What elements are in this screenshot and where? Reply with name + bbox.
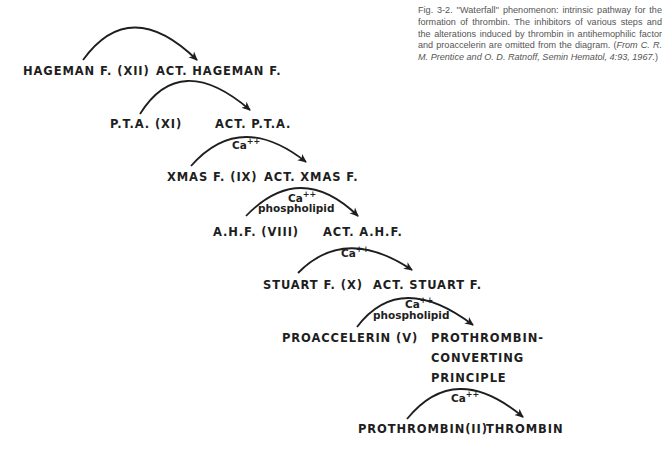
substrate-ahf: A.H.F. (VIII) bbox=[213, 225, 299, 239]
substrate-xmas: XMAS F. (IX) bbox=[167, 170, 258, 184]
product-prothrombin-converting-principle-line2: CONVERTING bbox=[431, 351, 524, 365]
cofactor-calcium: Ca++ bbox=[232, 137, 260, 151]
cofactor-calcium: Ca++ bbox=[405, 296, 433, 310]
product-act-hageman: ACT. HAGEMAN F. bbox=[156, 64, 282, 78]
substrate-pta: P.T.A. (XI) bbox=[110, 117, 182, 131]
substrate-stuart: STUART F. (X) bbox=[263, 278, 363, 292]
product-act-pta: ACT. P.T.A. bbox=[215, 117, 291, 131]
cofactor-phospholipid: phospholipid bbox=[258, 202, 335, 214]
cofactor-calcium: Ca++ bbox=[341, 245, 369, 259]
substrate-proaccelerin: PROACCELERIN (V) bbox=[282, 331, 418, 345]
cofactor-phospholipid: phospholipid bbox=[373, 309, 450, 321]
substrate-prothrombin: PROTHROMBIN(II) bbox=[358, 422, 488, 436]
product-thrombin: THROMBIN bbox=[486, 422, 563, 436]
product-act-stuart: ACT. STUART F. bbox=[373, 278, 482, 292]
product-act-ahf: ACT. A.H.F. bbox=[323, 225, 403, 239]
arrow-xii bbox=[83, 28, 197, 61]
product-prothrombin-converting-principle-line1: PROTHROMBIN- bbox=[431, 331, 544, 345]
substrate-hageman: HAGEMAN F. (XII) bbox=[23, 64, 150, 78]
product-act-xmas: ACT. XMAS F. bbox=[264, 170, 359, 184]
cofactor-calcium: Ca++ bbox=[451, 390, 479, 404]
product-prothrombin-converting-principle-line3: PRINCIPLE bbox=[431, 371, 507, 385]
arrow-xi bbox=[140, 81, 250, 114]
